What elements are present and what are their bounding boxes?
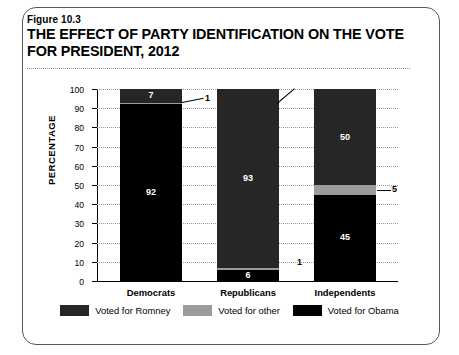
value-republicans-obama: 6 [245, 271, 250, 280]
category-label-independents: Independents [315, 287, 376, 298]
y-tick-20: 20 [92, 243, 97, 244]
figure-panel: Figure 10.3 THE EFFECT OF PARTY IDENTIFI… [0, 0, 459, 355]
value-republicans-romney: 93 [243, 174, 253, 183]
figure-number: Figure 10.3 [27, 14, 81, 25]
legend-label-other: Voted for other [218, 305, 280, 316]
legend-item-obama[interactable]: Voted for Obama [293, 305, 399, 316]
legend-label-romney: Voted for Romney [95, 305, 170, 316]
segment-republicans-obama: 6 [217, 270, 279, 282]
segment-independents-obama: 45 [314, 195, 376, 281]
leader-line-republicans-other [277, 88, 295, 104]
value-republicans-other: 1 [297, 257, 302, 267]
segment-independents-other [314, 185, 376, 195]
segment-independents-romney: 50 [314, 89, 376, 185]
chart-legend: Voted for Romney Voted for other Voted f… [0, 305, 459, 316]
category-label-republicans: Republicans [220, 287, 276, 298]
segment-democrats-obama: 92 [120, 104, 182, 281]
y-tick-label-30: 30 [74, 219, 84, 229]
y-tick-50: 50 [92, 185, 97, 186]
value-democrats-obama: 92 [146, 188, 156, 197]
y-tick-30: 30 [92, 223, 97, 224]
y-tick-label-0: 0 [79, 277, 84, 287]
legend-swatch-other-icon [183, 305, 212, 316]
y-tick-label-80: 80 [74, 123, 84, 133]
leader-line-independents-other [377, 190, 391, 191]
legend-swatch-obama-icon [293, 305, 322, 316]
y-tick-label-50: 50 [74, 181, 84, 191]
chart-plot-area: 100 90 80 70 60 50 40 30 20 10 0 92 7 De… [97, 89, 398, 281]
y-tick-label-100: 100 [70, 85, 84, 95]
segment-democrats-romney: 7 [120, 89, 182, 103]
y-tick-70: 70 [92, 147, 97, 148]
value-democrats-other: 1 [205, 93, 210, 103]
segment-democrats-other [120, 103, 182, 105]
y-tick-label-20: 20 [74, 239, 84, 249]
value-independents-other: 5 [392, 184, 397, 194]
legend-swatch-romney-icon [60, 305, 89, 316]
y-tick-label-40: 40 [74, 200, 84, 210]
value-independents-romney: 50 [340, 133, 350, 142]
category-label-democrats: Democrats [127, 287, 175, 298]
y-tick-10: 10 [92, 262, 97, 263]
y-tick-label-60: 60 [74, 162, 84, 172]
segment-republicans-other [217, 268, 279, 270]
legend-label-obama: Voted for Obama [328, 305, 399, 316]
legend-item-other[interactable]: Voted for other [183, 305, 280, 316]
y-tick-60: 60 [92, 166, 97, 167]
y-tick-40: 40 [92, 204, 97, 205]
value-democrats-romney: 7 [148, 91, 153, 100]
y-tick-90: 90 [92, 108, 97, 109]
y-tick-label-10: 10 [74, 258, 84, 268]
y-tick-0: 0 [92, 281, 97, 282]
x-axis-line [97, 281, 398, 282]
figure-title: THE EFFECT OF PARTY IDENTIFICATION ON TH… [27, 26, 407, 60]
y-axis-title: PERCENTAGE [46, 115, 57, 185]
title-divider [27, 68, 410, 69]
y-tick-label-70: 70 [74, 143, 84, 153]
value-independents-obama: 45 [340, 233, 350, 242]
segment-republicans-romney: 93 [217, 89, 279, 268]
leader-line-democrats-other [182, 97, 204, 102]
y-tick-label-90: 90 [74, 104, 84, 114]
y-tick-100: 100 [92, 89, 97, 90]
legend-item-romney[interactable]: Voted for Romney [60, 305, 170, 316]
y-tick-80: 80 [92, 127, 97, 128]
